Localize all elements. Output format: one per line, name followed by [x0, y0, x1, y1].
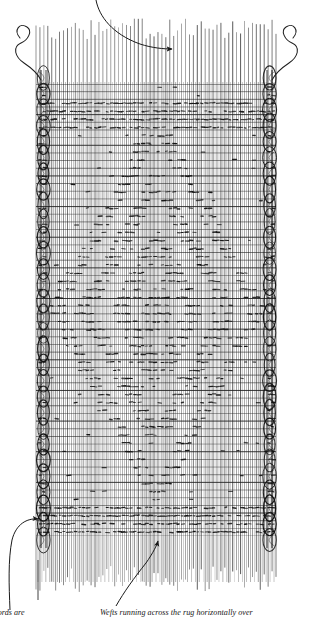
- caption-left-text: cords are: [0, 608, 25, 617]
- rug-weaving-diagram: [0, 0, 311, 620]
- caption-right-text: Wefts running across the rug horizontall…: [100, 608, 253, 617]
- caption-block: cords are Wefts running across the rug h…: [0, 600, 311, 620]
- illustration-stage: cords are Wefts running across the rug h…: [0, 0, 311, 620]
